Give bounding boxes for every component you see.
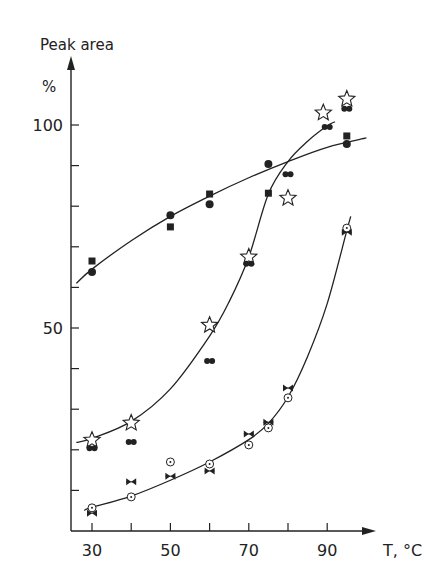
y-axis-label: Peak area <box>40 36 114 54</box>
lower-bowties-marker <box>244 430 254 437</box>
y-tick-label: 50 <box>43 319 63 338</box>
sigmoid-stars-marker <box>123 415 139 430</box>
chart-container: 5010030507090 Peak area % T, °C <box>0 0 445 570</box>
lower-bowties-marker <box>126 478 136 485</box>
lower-open-circles-marker <box>284 394 292 402</box>
upper-squares-marker <box>89 258 96 265</box>
sigmoid-fit-curve <box>76 122 335 443</box>
sigmoid-stars-marker <box>315 104 331 119</box>
upper-circles-marker <box>88 268 96 276</box>
sigmoid-double-dots-marker <box>243 261 254 267</box>
x-tick-label: 90 <box>317 541 337 560</box>
upper-circles-marker <box>264 160 272 168</box>
y-tick-label: 100 <box>32 116 63 135</box>
upper-fit-curve <box>76 138 366 283</box>
x-tick-label: 30 <box>82 541 102 560</box>
axes: 5010030507090 <box>32 56 376 560</box>
sigmoid-stars-marker <box>241 249 257 264</box>
upper-circles-marker <box>343 140 351 148</box>
upper-squares-marker <box>206 191 213 198</box>
sigmoid-double-dots-marker <box>341 106 352 112</box>
x-axis-arrow-icon <box>362 527 376 535</box>
lower-fit-curve <box>84 216 351 510</box>
sigmoid-double-dots-marker <box>283 171 294 177</box>
lower-open-circles-marker <box>88 504 96 512</box>
x-tick-label: 70 <box>239 541 259 560</box>
sigmoid-stars-marker <box>280 190 296 205</box>
y-axis-arrow-icon <box>67 56 75 70</box>
lower-open-circles-marker <box>264 424 272 432</box>
upper-squares-marker <box>167 223 174 230</box>
chart-svg: 5010030507090 Peak area % T, °C <box>0 0 445 570</box>
upper-circles-marker <box>166 211 174 219</box>
upper-squares-marker <box>343 132 350 139</box>
sigmoid-stars-marker <box>84 432 100 447</box>
lower-open-circles-marker <box>245 441 253 449</box>
lower-open-circles-marker <box>206 460 214 468</box>
upper-circles-marker <box>206 200 214 208</box>
sigmoid-double-dots-marker <box>204 358 215 364</box>
lower-open-circles-marker <box>127 493 135 501</box>
x-tick-label: 50 <box>160 541 180 560</box>
sigmoid-stars-marker <box>339 91 355 106</box>
sigmoid-double-dots-marker <box>322 124 333 130</box>
sigmoid-stars-marker <box>202 317 218 332</box>
sigmoid-double-dots-marker <box>126 439 137 445</box>
data-markers <box>84 91 355 517</box>
y-axis-unit: % <box>42 78 56 96</box>
sigmoid-double-dots-marker <box>87 445 98 451</box>
upper-squares-marker <box>265 190 272 197</box>
fit-curves <box>76 122 366 511</box>
x-axis-label: T, °C <box>382 541 422 560</box>
lower-open-circles-marker <box>166 458 174 466</box>
